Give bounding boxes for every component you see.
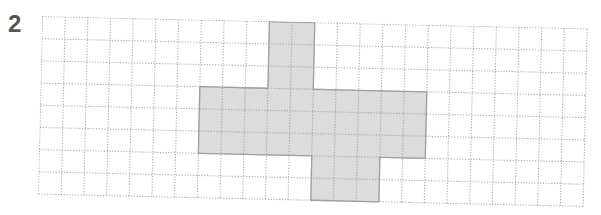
shaded-cell	[356, 179, 379, 202]
shaded-cell	[312, 134, 335, 157]
shaded-cell	[358, 90, 381, 113]
shaded-cell	[244, 110, 267, 133]
shaded-cell	[313, 89, 336, 112]
shaded-cell	[267, 88, 290, 111]
shaded-cell	[199, 109, 222, 132]
grid-line-vertical	[560, 28, 564, 206]
shaded-cell	[404, 91, 427, 114]
shaded-cell	[269, 22, 292, 45]
shaded-cell	[244, 132, 267, 155]
shaded-cell	[312, 111, 335, 134]
shaded-cell	[222, 87, 245, 110]
shaded-cell	[291, 67, 314, 90]
shaded-cell	[222, 109, 245, 132]
problem-number: 2	[8, 12, 21, 36]
shaded-cell	[289, 133, 312, 156]
shaded-cell	[358, 112, 381, 135]
shaded-cell	[333, 179, 356, 202]
grid-diagram	[38, 16, 589, 208]
shaded-cell	[335, 112, 358, 135]
shaded-cell	[357, 135, 380, 158]
shaded-cell	[266, 133, 289, 156]
shaded-cell	[268, 66, 291, 89]
shaded-cell	[380, 135, 403, 158]
shaded-cell	[198, 131, 221, 154]
shaded-cell	[290, 111, 313, 134]
shaded-cell	[357, 157, 380, 180]
shaded-cell	[403, 136, 426, 159]
shaded-cell	[291, 44, 314, 67]
shaded-cell	[334, 134, 357, 157]
shaded-cell	[311, 178, 334, 201]
shaded-cell	[199, 87, 222, 110]
shaded-cell	[290, 89, 313, 112]
shaded-cell	[311, 156, 334, 179]
shaded-cell	[381, 91, 404, 114]
shaded-cell	[245, 88, 268, 111]
shaded-cell	[267, 110, 290, 133]
shaded-cell	[335, 90, 358, 113]
grid-line-vertical	[38, 17, 42, 195]
shaded-cell	[403, 114, 426, 137]
shaded-cell	[334, 156, 357, 179]
dotted-grid	[38, 16, 589, 208]
shaded-cell	[268, 44, 291, 67]
shaded-cell	[292, 22, 315, 45]
shaded-cell	[380, 113, 403, 136]
shaded-cell	[221, 132, 244, 155]
